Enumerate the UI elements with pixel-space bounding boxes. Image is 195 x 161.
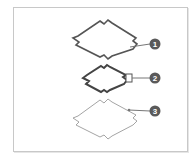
diagram-canvas: 1 2 3 (0, 0, 195, 161)
callout-2: 2 (132, 73, 161, 84)
vertex-handle (126, 74, 132, 82)
notched-diamond-3 (73, 99, 137, 139)
notched-diamond-2 (83, 65, 132, 92)
callout-3: 3 (128, 106, 161, 117)
callout-number-2: 2 (153, 74, 158, 83)
callout-number-1: 1 (153, 40, 158, 49)
callout-number-3: 3 (153, 107, 158, 116)
notched-diamond-1 (73, 20, 137, 59)
